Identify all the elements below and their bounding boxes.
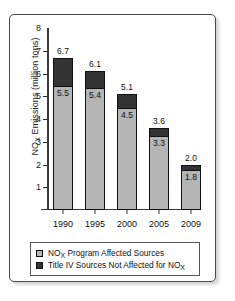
y-tick-mark xyxy=(43,119,47,120)
bar-segment-value-label: 4.5 xyxy=(118,110,136,120)
x-tick-mark xyxy=(95,210,96,214)
legend-swatch-icon xyxy=(36,250,43,257)
bar-segment-value-label: 5.5 xyxy=(54,88,72,98)
bar-segment-value-label: 5.4 xyxy=(86,90,104,100)
bar-segment-title-iv[interactable] xyxy=(150,129,168,136)
bar-segment-value-label: 1.8 xyxy=(182,172,200,182)
bar-group: 6.75.5 xyxy=(53,15,73,210)
bar-segment-nox-program[interactable]: 1.8 xyxy=(182,170,200,209)
y-tick-label: 1 xyxy=(27,183,41,192)
bar-group: 2.01.8 xyxy=(181,15,201,210)
legend-label-pre: Title IV Sources Not Affected for NO xyxy=(48,260,180,270)
bar-segment-nox-program[interactable]: 5.5 xyxy=(54,86,72,209)
y-tick-label: 4 xyxy=(27,115,41,124)
x-tick-mark xyxy=(127,210,128,214)
stacked-bar[interactable]: 3.3 xyxy=(149,128,169,210)
y-tick-mark xyxy=(43,96,47,97)
bar-group: 6.15.4 xyxy=(85,15,105,210)
stacked-bar[interactable]: 1.8 xyxy=(181,165,201,211)
x-tick-mark xyxy=(159,210,160,214)
bars-layer: 6.75.56.15.45.14.53.63.32.01.8 xyxy=(47,15,207,210)
chart-frame: NOX Emissions (million tons) 12345678 6.… xyxy=(9,14,216,282)
bar-segment-title-iv[interactable] xyxy=(86,72,104,88)
y-tick-label: 7 xyxy=(27,46,41,55)
legend-label-pre: NO xyxy=(48,248,60,258)
bar-total-label: 6.7 xyxy=(45,46,81,56)
bar-total-label: 6.1 xyxy=(77,59,113,69)
legend-label-post: Program Affected Sources xyxy=(65,248,164,258)
figure-root: NOX Emissions (million tons) 12345678 6.… xyxy=(0,0,235,301)
legend-item[interactable]: Title IV Sources Not Affected for NOX xyxy=(36,259,194,271)
x-tick-mark xyxy=(191,210,192,214)
bar-total-label: 3.6 xyxy=(141,116,177,126)
y-tick-mark xyxy=(43,51,47,52)
y-tick-mark xyxy=(43,187,47,188)
x-tick-label: 2009 xyxy=(171,219,211,229)
bar-segment-nox-program[interactable]: 5.4 xyxy=(86,88,104,209)
y-tick-label: 5 xyxy=(27,92,41,101)
bar-total-label: 5.1 xyxy=(109,82,145,92)
legend-label-subscript: X xyxy=(180,264,185,271)
bar-group: 3.63.3 xyxy=(149,15,169,210)
bar-segment-title-iv[interactable] xyxy=(118,95,136,108)
y-tick-mark xyxy=(43,142,47,143)
legend-item[interactable]: NOX Program Affected Sources xyxy=(36,247,194,259)
x-axis-ticks: 19901995200020052009 xyxy=(47,210,207,232)
y-tick-mark xyxy=(43,74,47,75)
bar-segment-value-label: 3.3 xyxy=(150,138,168,148)
stacked-bar[interactable]: 4.5 xyxy=(117,94,137,210)
bar-segment-nox-program[interactable]: 3.3 xyxy=(150,136,168,209)
stacked-bar[interactable]: 5.4 xyxy=(85,71,105,210)
bar-group: 5.14.5 xyxy=(117,15,137,210)
legend-label: Title IV Sources Not Affected for NOX xyxy=(48,260,185,271)
chart-legend: NOX Program Affected SourcesTitle IV Sou… xyxy=(30,242,200,276)
y-tick-label: 8 xyxy=(27,24,41,33)
bar-total-label: 2.0 xyxy=(173,153,209,163)
x-tick-mark xyxy=(63,210,64,214)
stacked-bar[interactable]: 5.5 xyxy=(53,58,73,210)
y-tick-label: 2 xyxy=(27,160,41,169)
legend-label: NOX Program Affected Sources xyxy=(48,248,164,259)
legend-swatch-icon xyxy=(36,262,43,269)
bar-segment-nox-program[interactable]: 4.5 xyxy=(118,108,136,209)
y-tick-label: 3 xyxy=(27,137,41,146)
y-tick-mark xyxy=(43,165,47,166)
plot-area: NOX Emissions (million tons) 12345678 6.… xyxy=(10,15,215,281)
y-tick-label: 6 xyxy=(27,69,41,78)
bar-segment-title-iv[interactable] xyxy=(54,59,72,86)
